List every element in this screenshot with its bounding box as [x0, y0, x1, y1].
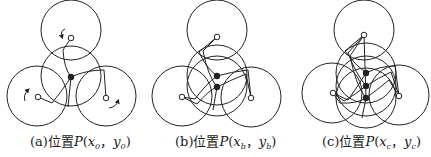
caption-prefix: 位置 [339, 134, 365, 149]
separator: ， [391, 134, 404, 149]
pivot-joint-icon [179, 94, 185, 100]
pivots-a [35, 35, 109, 101]
link-circle [334, 0, 394, 60]
x-var: x [88, 134, 95, 149]
caption-b: (b)位置P(xb，yb) [175, 131, 276, 151]
dots-c [363, 70, 369, 101]
end-effector-point-icon [363, 95, 369, 101]
circles-a [7, 0, 136, 126]
caption-prefix: 位置 [48, 134, 74, 149]
link-circle [41, 0, 101, 60]
panel-c-diagram [302, 0, 429, 128]
end-effector-point-icon [68, 74, 74, 80]
caption-label: (c) [322, 134, 339, 149]
y-var: y [113, 134, 120, 149]
separator: ， [246, 134, 259, 149]
close-paren: ) [416, 134, 421, 149]
caption-label: (a) [30, 134, 48, 149]
dots-a [68, 74, 74, 80]
end-effector-point-icon [214, 84, 220, 90]
pivot-joint-icon [103, 95, 109, 101]
pivot-joint-icon [68, 35, 74, 41]
end-effector-point-icon [363, 70, 369, 76]
rotation-arrow-icon [24, 90, 28, 101]
close-paren: ) [126, 134, 131, 149]
caption-c: (c)位置P(xc，yc) [322, 131, 421, 151]
pivot-joint-icon [214, 34, 220, 40]
three-link-mechanism-figure: (a)位置P(x0，y0) (b)位置P(xb，yb) (c)位置P(xc，yc… [0, 0, 431, 157]
pivot-joint-icon [396, 93, 402, 99]
circles-c [302, 0, 429, 128]
links-a [38, 38, 106, 107]
pivot-joint-icon [330, 90, 336, 96]
x-var: x [379, 134, 386, 149]
caption-label: (b) [175, 134, 193, 149]
panel-a-diagram [7, 0, 136, 126]
pivot-joint-icon [35, 94, 41, 100]
x-var: x [233, 134, 240, 149]
pivot-joint-icon [248, 95, 254, 101]
point-symbol: P [219, 134, 228, 149]
caption-a: (a)位置P(x0，y0) [30, 131, 131, 151]
circles-b [152, 0, 281, 127]
point-symbol: P [365, 134, 374, 149]
link-circle [187, 0, 247, 60]
point-symbol: P [74, 134, 83, 149]
separator: ， [100, 134, 113, 149]
pivot-joint-icon [361, 32, 367, 38]
rotation-arrow-icon [61, 29, 65, 37]
mechanism-diagram [0, 0, 431, 130]
end-effector-point-icon [214, 73, 220, 79]
panel-b-diagram [152, 0, 281, 127]
dots-b [214, 73, 220, 90]
close-paren: ) [271, 134, 276, 149]
caption-prefix: 位置 [193, 134, 219, 149]
rotation-arrow-icon [109, 101, 118, 108]
end-effector-point-icon [363, 83, 369, 89]
